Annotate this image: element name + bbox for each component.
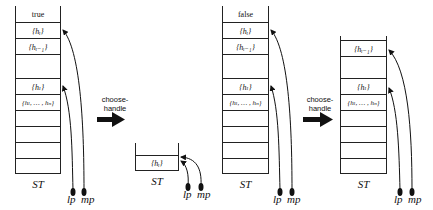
transition-arrow-2: [303, 112, 333, 127]
arrows-overlay: [0, 0, 433, 210]
pointer-mp-stack-3: [271, 30, 295, 196]
pointer-mp-stack-1: [63, 30, 87, 196]
pointer-lp-stack-4: [389, 88, 403, 196]
pointer-lp-stack-2: [181, 161, 191, 191]
pointer-mp-stack-2: [181, 157, 204, 191]
transition-arrow-1: [97, 112, 125, 127]
pointer-lp-stack-1: [63, 86, 76, 196]
pointer-mp-stack-4: [389, 50, 415, 196]
pointer-lp-stack-3: [271, 86, 283, 196]
